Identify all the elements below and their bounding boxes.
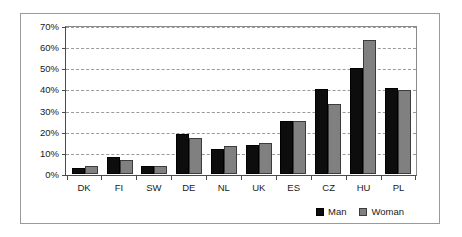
- x-axis-tick: [346, 176, 347, 180]
- bar-woman-cz: [328, 104, 341, 173]
- bars-layer: [68, 28, 416, 174]
- plot-wrapper: 0%10%20%30%40%50%60%70% DKFISWDENLUKESCZ…: [65, 26, 417, 176]
- bar-man-hu: [350, 68, 363, 174]
- chart-frame: 0%10%20%30%40%50%60%70% DKFISWDENLUKESCZ…: [20, 13, 440, 224]
- chart-legend: Man Woman: [316, 207, 404, 217]
- bar-group: [68, 28, 103, 174]
- x-axis-tick: [381, 176, 382, 180]
- y-axis-label: 40%: [40, 86, 59, 96]
- bar-man-sw: [141, 166, 154, 173]
- x-axis-tick: [101, 176, 102, 180]
- x-axis-tick: [241, 176, 242, 180]
- bar-group: [311, 28, 346, 174]
- x-axis-label-dk: DK: [67, 176, 102, 193]
- x-axis-tick: [136, 176, 137, 180]
- y-axis-tick: [62, 48, 66, 49]
- y-axis-label: 20%: [40, 128, 59, 138]
- x-axis-label-fi: FI: [101, 176, 136, 193]
- y-axis-tick: [62, 27, 66, 28]
- bar-group: [207, 28, 242, 174]
- bar-group: [137, 28, 172, 174]
- y-axis-label: 50%: [40, 65, 59, 75]
- x-axis-tick: [311, 176, 312, 180]
- x-axis-label-de: DE: [171, 176, 206, 193]
- legend-label-woman: Woman: [371, 207, 404, 217]
- x-axis-label-hu: HU: [346, 176, 381, 193]
- bar-group: [380, 28, 415, 174]
- y-axis-tick: [62, 154, 66, 155]
- bar-man-nl: [211, 149, 224, 174]
- y-axis-tick: [62, 133, 66, 134]
- bar-woman-de: [189, 138, 202, 173]
- x-axis-label-sw: SW: [136, 176, 171, 193]
- bar-woman-es: [293, 121, 306, 173]
- y-axis-tick: [62, 90, 66, 91]
- x-axis-label-es: ES: [276, 176, 311, 193]
- plot-area: 0%10%20%30%40%50%60%70%: [65, 26, 417, 176]
- x-axis-label-pl: PL: [381, 176, 416, 193]
- y-axis-tick: [62, 112, 66, 113]
- y-axis-label: 10%: [40, 149, 59, 159]
- legend-swatch-man-icon: [316, 208, 324, 216]
- x-axis-tick: [67, 176, 68, 180]
- bar-man-dk: [72, 168, 85, 173]
- x-axis-label-nl: NL: [206, 176, 241, 193]
- legend-label-man: Man: [328, 207, 346, 217]
- bar-group: [276, 28, 311, 174]
- bar-woman-fi: [120, 160, 133, 173]
- bar-group: [346, 28, 381, 174]
- bar-woman-nl: [224, 146, 237, 173]
- y-axis-label: 70%: [40, 22, 59, 32]
- legend-item-woman: Woman: [359, 207, 404, 217]
- bar-man-cz: [315, 89, 328, 173]
- x-axis-tick: [276, 176, 277, 180]
- bar-group: [241, 28, 276, 174]
- bar-group: [172, 28, 207, 174]
- y-axis-label: 60%: [40, 43, 59, 53]
- bar-woman-uk: [259, 143, 272, 173]
- bar-woman-pl: [398, 90, 411, 174]
- bar-man-fi: [107, 157, 120, 174]
- bar-woman-hu: [363, 40, 376, 173]
- bar-man-pl: [385, 88, 398, 174]
- legend-item-man: Man: [316, 207, 346, 217]
- x-axis-labels: DKFISWDENLUKESCZHUPL: [67, 176, 417, 193]
- bar-group: [102, 28, 137, 174]
- legend-swatch-woman-icon: [359, 208, 367, 216]
- bar-woman-sw: [154, 166, 167, 173]
- y-axis-tick: [62, 69, 66, 70]
- bar-woman-dk: [85, 166, 98, 173]
- x-axis-tick: [171, 176, 172, 180]
- x-axis-label-cz: CZ: [311, 176, 346, 193]
- bar-man-de: [176, 134, 189, 174]
- x-axis-label-uk: UK: [241, 176, 276, 193]
- x-axis-tick: [206, 176, 207, 180]
- y-axis-label: 0%: [45, 170, 59, 180]
- bar-man-uk: [246, 145, 259, 173]
- x-axis-tick: [415, 176, 416, 180]
- y-axis-tick: [62, 175, 66, 176]
- bar-man-es: [280, 121, 293, 174]
- y-axis-label: 30%: [40, 107, 59, 117]
